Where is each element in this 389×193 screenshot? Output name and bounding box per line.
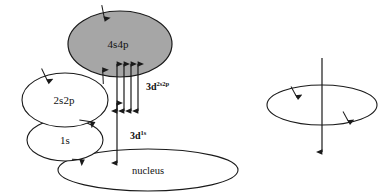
transition-3d-1s-label-superscript: 1s — [141, 129, 147, 136]
transition-3d-2s2p-label: 3d2s2p — [146, 80, 170, 92]
transition-3d-2s2p-label-superscript: 2s2p — [157, 80, 170, 87]
shell-nucleus-label: nucleus — [132, 165, 164, 176]
shell-4s4p: 4s4p — [68, 5, 172, 84]
shell-1s-label: 1s — [60, 134, 70, 146]
orbit-direction-arrow-lower — [343, 111, 349, 123]
transition-3d-2s2p-label-base: 3d — [146, 81, 157, 92]
shell-4s4p-label: 4s4p — [108, 38, 129, 50]
transition-3d-1s-label-base: 3d — [130, 130, 141, 141]
shell-2s2p: 2s2p — [22, 68, 108, 127]
shell-2s2p-label: 2s2p — [54, 94, 75, 106]
orbital-spin-diagram — [267, 58, 377, 152]
transition-3d-1s-label: 3d1s — [130, 129, 147, 141]
figure-root: nucleus 1s 2s2p 4s4p — [0, 0, 389, 193]
diagram-canvas: nucleus 1s 2s2p 4s4p — [0, 0, 389, 193]
